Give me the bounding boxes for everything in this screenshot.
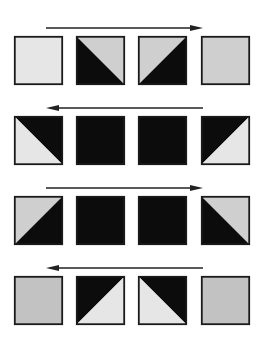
tile-4 bbox=[201, 36, 250, 85]
tile-2 bbox=[76, 276, 125, 325]
tile-3 bbox=[138, 276, 187, 325]
tile-1 bbox=[14, 36, 63, 85]
tile-1 bbox=[14, 276, 63, 325]
tile-4 bbox=[201, 196, 250, 245]
tile-2 bbox=[76, 36, 125, 85]
tile-2 bbox=[76, 196, 125, 245]
row-2 bbox=[14, 105, 250, 165]
tile-1 bbox=[14, 116, 63, 165]
pattern-diagram bbox=[0, 0, 258, 341]
arrow-left-icon bbox=[46, 265, 203, 271]
tile-3 bbox=[138, 116, 187, 165]
row-3 bbox=[14, 185, 250, 245]
tile-2 bbox=[76, 116, 125, 165]
tile-4 bbox=[201, 116, 250, 165]
tile-3 bbox=[138, 196, 187, 245]
arrow-left-icon bbox=[46, 105, 203, 111]
tile-4 bbox=[201, 276, 250, 325]
arrow-right-icon bbox=[46, 25, 203, 31]
row-1 bbox=[14, 25, 250, 85]
tile-3 bbox=[138, 36, 187, 85]
tile-1 bbox=[14, 196, 63, 245]
arrow-right-icon bbox=[46, 185, 203, 191]
row-4 bbox=[14, 265, 250, 325]
